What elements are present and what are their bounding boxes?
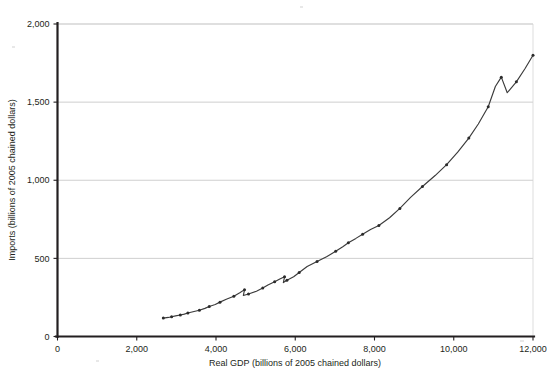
x-tick-label-8000: 8,000 xyxy=(363,344,386,354)
data-point xyxy=(198,309,201,312)
data-point xyxy=(273,280,276,283)
x-tick-label-12000: 12,000 xyxy=(519,344,547,354)
y-tick-label-0: 0 xyxy=(44,332,49,342)
x-axis-title: Real GDP (billions of 2005 chained dolla… xyxy=(209,358,381,368)
data-point xyxy=(261,287,264,290)
data-point xyxy=(283,275,286,278)
data-point xyxy=(377,224,380,227)
data-point xyxy=(170,315,173,318)
data-point xyxy=(179,313,182,316)
x-axis-ticks: 02,0004,0006,0008,00010,00012,000 xyxy=(55,337,547,354)
data-point xyxy=(243,288,246,291)
data-point xyxy=(162,317,165,320)
imports-vs-gdp-scatter-line-chart: 05001,0001,5002,000 02,0004,0006,0008,00… xyxy=(0,0,550,374)
y-tick-label-1000: 1,000 xyxy=(27,175,50,185)
data-point xyxy=(500,76,503,79)
data-point xyxy=(361,233,364,236)
y-tick-label-500: 500 xyxy=(34,254,49,264)
y-tick-label-1500: 1,500 xyxy=(27,97,50,107)
x-tick-label-0: 0 xyxy=(55,344,60,354)
chart-container: 05001,0001,5002,000 02,0004,0006,0008,00… xyxy=(0,0,550,374)
data-point xyxy=(532,54,535,57)
data-point xyxy=(398,207,401,210)
data-point xyxy=(247,293,250,296)
x-tick-label-2000: 2,000 xyxy=(125,344,148,354)
data-point xyxy=(334,250,337,253)
data-point xyxy=(347,241,350,244)
data-point xyxy=(285,279,288,282)
data-point xyxy=(186,312,189,315)
data-point xyxy=(218,301,221,304)
data-point xyxy=(316,260,319,263)
data-point xyxy=(445,163,448,166)
data-point xyxy=(232,295,235,298)
data-point xyxy=(421,185,424,188)
data-point xyxy=(487,105,490,108)
data-point xyxy=(467,137,470,140)
x-tick-label-10000: 10,000 xyxy=(440,344,468,354)
y-tick-label-2000: 2,000 xyxy=(27,19,50,29)
y-axis-ticks: 05001,0001,5002,000 xyxy=(27,19,58,342)
x-tick-label-4000: 4,000 xyxy=(205,344,228,354)
x-tick-label-6000: 6,000 xyxy=(284,344,307,354)
data-point xyxy=(515,80,518,83)
data-point xyxy=(208,305,211,308)
y-axis-title: Imports (billions of 2005 chained dollar… xyxy=(7,99,17,261)
data-point xyxy=(298,271,301,274)
